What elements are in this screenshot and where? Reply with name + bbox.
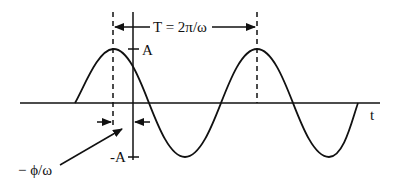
amplitude-label: A [142,42,153,58]
neg-amplitude-label: -A [110,149,126,165]
period-label: T = 2π/ω [153,19,207,35]
phase-label: − ϕ/ω [18,162,52,178]
time-axis-label: t [370,107,375,123]
sine-wave-diagram: T = 2π/ω A -A t − ϕ/ω [0,0,397,188]
